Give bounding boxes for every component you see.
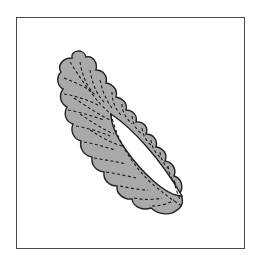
feather-wreath-illustration: [0, 0, 259, 261]
